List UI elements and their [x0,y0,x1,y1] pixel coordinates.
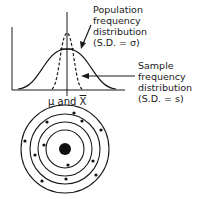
target-bullseye [59,143,71,155]
target-shot [42,143,45,146]
target-shot [33,153,36,156]
target-shot [45,120,48,123]
sample-label-line: distribution [138,82,192,93]
target-shot [72,111,75,114]
population-label-line: Population [93,4,147,15]
target-shot [64,177,67,180]
target-shot [23,139,26,142]
sample-label-line: (S.D. = s) [138,93,192,104]
target-shot [99,128,102,131]
target-shot [94,173,97,176]
population-distribution-label: Population frequency distribution (S.D. … [93,4,147,48]
sample-arrowhead-icon [81,73,89,79]
target-shot [40,179,43,182]
target-shot [91,159,94,162]
mean-axis-label: μ and X [48,96,86,107]
population-pointer-line [83,25,91,44]
mean-label-xbar: X [80,96,87,107]
sample-distribution-label: Sample frequency distribution (S.D. = s) [138,60,192,104]
population-label-line: frequency [93,15,147,26]
sample-label-line: Sample [138,60,192,71]
population-label-line: (S.D. = σ) [93,37,147,48]
sample-label-line: frequency [138,71,192,82]
target-shot [80,119,83,122]
target-shot [66,163,69,166]
target [21,105,109,193]
population-label-line: distribution [93,26,147,37]
mean-label-prefix: μ and [48,96,80,107]
population-arrowhead-icon [80,41,86,49]
